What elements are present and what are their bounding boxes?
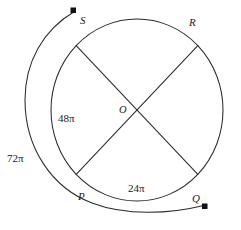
vertex-label-S: S <box>80 15 86 26</box>
outer-arc-end-marker <box>202 204 208 210</box>
vertex-label-P: P <box>78 191 85 202</box>
arc-measure-72pi: 72π <box>7 153 24 164</box>
outer-measuring-arc <box>25 12 204 213</box>
outer-arc-start-marker <box>71 8 77 14</box>
vertex-label-R: R <box>189 17 196 28</box>
circle-arc-figure: S R P Q O 48π 24π 72π <box>0 0 241 230</box>
arc-measure-24pi: 24π <box>128 183 145 194</box>
center-label-O: O <box>119 105 127 116</box>
arc-measure-48pi: 48π <box>58 113 75 124</box>
vertex-label-Q: Q <box>192 193 200 204</box>
